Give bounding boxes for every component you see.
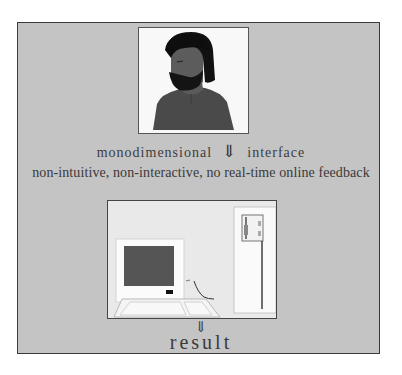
characteristics-text: non-intuitive, non-interactive, no real-… bbox=[0, 165, 402, 181]
interface-left-label: monodimensional bbox=[97, 145, 212, 160]
desktop-computer-icon bbox=[107, 200, 277, 319]
down-arrow-icon: ⇓ bbox=[222, 141, 237, 162]
interface-right-label: interface bbox=[247, 145, 305, 160]
user-portrait-icon bbox=[138, 27, 249, 134]
result-label: result bbox=[0, 331, 402, 353]
interface-line: monodimensional⇓interface bbox=[0, 141, 402, 162]
